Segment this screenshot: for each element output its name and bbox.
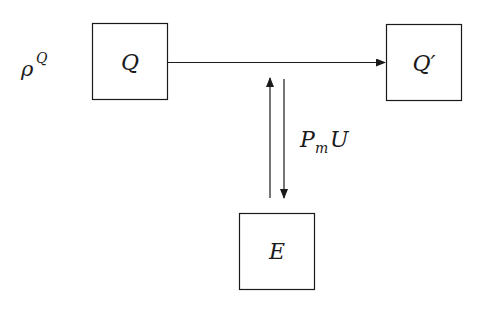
interaction-base: P [299,127,316,152]
node-q-label: Q [121,50,139,75]
node-e-label: E [268,239,285,264]
node-q: Q [93,24,168,100]
interaction-label: P m U [299,127,350,156]
node-e: E [240,214,315,290]
interaction-tail: U [330,127,350,152]
node-q-prime-label: Q′ [412,51,435,76]
rho-q-label: ρ Q [20,50,48,81]
diagram-svg: Q Q′ E ρ Q P m U [0,0,484,309]
rho-superscript: Q [36,50,48,66]
interaction-subscript: m [315,140,328,156]
rho-base: ρ [20,57,34,81]
node-q-prime: Q′ [387,25,462,101]
diagram-canvas: Q Q′ E ρ Q P m U [0,0,484,309]
